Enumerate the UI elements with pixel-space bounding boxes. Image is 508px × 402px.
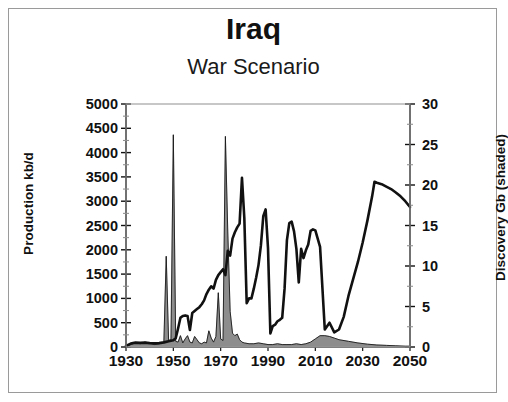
y-axis-left-tick-label: 4000 [56,146,118,161]
y-axis-left-tick-label: 3000 [56,194,118,209]
y-axis-left-tick-label: 3500 [56,170,118,185]
y-axis-right-tick-label: 10 [422,259,462,274]
y-axis-left-tick-label: 2000 [56,243,118,258]
y-axis-right-tick-label: 20 [422,178,462,193]
y-axis-right-tick-label: 15 [422,219,462,234]
y-axis-left-tick-label: 5000 [56,97,118,112]
y-axis-left-tick-label: 2500 [56,219,118,234]
production-line [126,178,410,346]
y-axis-left-tick-label: 1000 [56,291,118,306]
y-axis-right-tick-label: 25 [422,138,462,153]
y-axis-left-title: Production kb/d [21,124,36,284]
x-axis-tick-label: 2050 [380,353,440,369]
y-axis-right-title: Discovery Gb (shaded) [493,108,508,308]
y-axis-left-tick-label: 500 [56,316,118,331]
y-axis-right-tick-label: 5 [422,300,462,315]
y-axis-right-tick-label: 30 [422,97,462,112]
y-axis-left-tick-label: 4500 [56,121,118,136]
y-axis-left-tick-label: 1500 [56,267,118,282]
